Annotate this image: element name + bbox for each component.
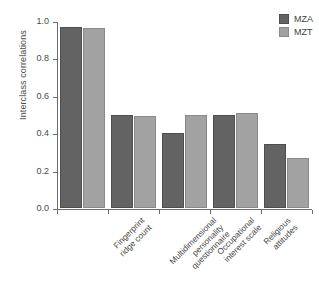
y-axis-tick-label: 0.2 <box>19 166 49 176</box>
bar-mza-4 <box>264 144 286 208</box>
y-axis-tick-label: 1.0 <box>19 16 49 26</box>
bar-mza-2 <box>162 133 184 208</box>
y-axis-tick <box>53 22 57 23</box>
x-axis-tick <box>57 210 58 214</box>
y-axis-tick <box>53 59 57 60</box>
x-axis-tick <box>159 210 160 214</box>
plot-area: 0.00.20.40.60.81.0 <box>57 22 312 209</box>
legend-swatch-icon <box>279 14 289 24</box>
bar-mzt-2 <box>185 115 207 209</box>
bar-mza-1 <box>111 115 133 209</box>
y-axis-label: Interclass correlations <box>18 5 28 145</box>
bar-mzt-3 <box>236 113 258 208</box>
bar-mzt-0 <box>83 28 105 208</box>
x-axis-tick <box>108 210 109 214</box>
x-axis-tick <box>312 210 313 214</box>
y-axis-tick <box>53 134 57 135</box>
bar-mza-3 <box>213 115 235 209</box>
legend-item-mza[interactable]: MZA <box>279 14 313 24</box>
bar-mzt-1 <box>134 116 156 208</box>
chart-legend: MZAMZT <box>279 14 313 37</box>
y-axis-tick-label: 0.6 <box>19 91 49 101</box>
legend-label: MZA <box>294 14 313 24</box>
y-axis-line <box>57 22 58 210</box>
x-axis-tick <box>261 210 262 214</box>
legend-label: MZT <box>294 27 313 37</box>
y-axis-tick-label: 0.4 <box>19 128 49 138</box>
legend-item-mzt[interactable]: MZT <box>279 27 313 37</box>
y-axis-tick <box>53 97 57 98</box>
y-axis-tick-label: 0.0 <box>19 203 49 213</box>
x-axis-category-label-0: Fingerprintridge count <box>111 216 154 259</box>
x-axis-line <box>57 209 312 210</box>
x-axis-category-label-3: Religiousattitudes <box>261 216 299 254</box>
y-axis-tick-label: 0.8 <box>19 53 49 63</box>
bar-mzt-4 <box>287 158 309 208</box>
legend-swatch-icon <box>279 27 289 37</box>
bar-chart-figure: Interclass correlations 0.00.20.40.60.81… <box>0 0 319 285</box>
y-axis-tick <box>53 172 57 173</box>
bar-mza-0 <box>60 27 82 208</box>
x-axis-tick <box>210 210 211 214</box>
